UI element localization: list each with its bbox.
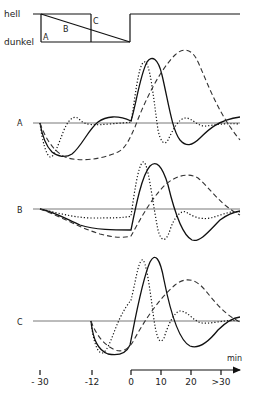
tick-label: - 30 [31,377,49,387]
hell-label: hell [4,9,20,19]
panel-a-dashed-curve [40,50,240,160]
tick-label: -12 [85,377,100,387]
panel-c-label: C [17,318,23,327]
panel-a-label: A [17,119,23,128]
panel-a-dotted-curve [40,62,240,157]
panel-c: C [17,257,240,354]
panel-b-dotted-curve [40,162,240,239]
panel-c-dashed-curve [91,280,240,351]
tick-label: 0 [128,377,134,387]
dunkel-label: dunkel [4,37,34,47]
panel-a-solid-curve [40,58,240,156]
tick-label: >30 [212,377,231,387]
panel-c-solid-curve [91,257,240,354]
stimulus-label-b: B [63,25,69,34]
axis-arrowhead-icon [233,367,241,374]
tick-label: 20 [185,377,197,387]
panel-a: A [17,50,240,160]
stimulus-label-c: C [93,17,99,26]
figure: hell dunkel A B C A B C [0,0,253,395]
time-axis: min - 30 -12 0 10 20 >30 [31,354,242,387]
tick-label: 10 [155,377,167,387]
panel-b-dashed-curve [40,175,240,237]
panel-b-solid-curve [40,164,240,241]
stimulus-label-a: A [43,33,49,42]
panel-b-label: B [17,206,23,215]
panel-c-dotted-curve [91,260,240,353]
axis-unit-label: min [227,354,242,363]
stimulus-diagram: hell dunkel A B C [4,9,240,47]
panel-b: B [17,162,240,241]
